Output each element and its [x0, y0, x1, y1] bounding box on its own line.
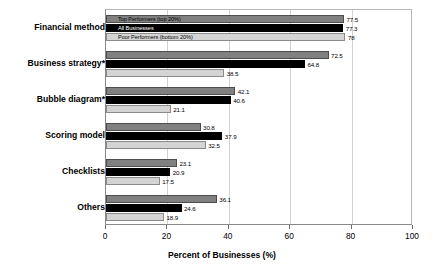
- x-tick: [228, 225, 229, 229]
- bar-row: 77.3: [106, 24, 411, 33]
- bar: [106, 69, 224, 78]
- x-tick: [351, 225, 352, 229]
- bar-value-label: 77.5: [346, 15, 358, 22]
- bar: [106, 177, 160, 186]
- x-tick-label: 60: [285, 231, 294, 241]
- bar-row: 78: [106, 33, 411, 42]
- bar: [106, 15, 344, 24]
- bar-value-label: 20.9: [173, 168, 185, 175]
- bar: [106, 195, 217, 204]
- bar-value-label: 32.5: [208, 142, 220, 149]
- category-label: Others: [0, 202, 105, 212]
- bar-value-label: 42.1: [238, 87, 250, 94]
- bar: [106, 123, 201, 132]
- x-axis-title: Percent of Businesses (%): [0, 250, 444, 260]
- bar-row: 42.1: [106, 87, 411, 96]
- bar: [106, 87, 235, 96]
- bar: [106, 132, 222, 141]
- bar-row: 38.5: [106, 69, 411, 78]
- x-tick: [289, 225, 290, 229]
- bar-row: 72.5: [106, 51, 411, 60]
- bar-row: 17.5: [106, 177, 411, 186]
- bar-group: 36.124.618.9: [106, 190, 411, 226]
- bar-row: 37.9: [106, 132, 411, 141]
- bar: [106, 96, 231, 105]
- bar: [106, 213, 164, 222]
- bar-row: 23.1: [106, 159, 411, 168]
- bar: [106, 24, 343, 33]
- bar-value-label: 38.5: [227, 70, 239, 77]
- bar-row: 24.6: [106, 204, 411, 213]
- x-tick-label: 40: [223, 231, 232, 241]
- bar-row: 30.8: [106, 123, 411, 132]
- bar-value-label: 18.9: [167, 214, 179, 221]
- x-tick: [166, 225, 167, 229]
- bar: [106, 141, 206, 150]
- bar-row: 32.5: [106, 141, 411, 150]
- category-label: Scoring model: [0, 130, 105, 140]
- x-tick-label: 0: [103, 231, 108, 241]
- bar-group: 77.577.378: [106, 10, 411, 46]
- bar-value-label: 64.8: [307, 60, 319, 67]
- bar-group: 72.564.838.5: [106, 46, 411, 82]
- bar-value-label: 30.8: [203, 123, 215, 130]
- bar-group: 42.140.621.1: [106, 82, 411, 118]
- bar-row: 20.9: [106, 168, 411, 177]
- bar-value-label: 21.1: [173, 106, 185, 113]
- bar-row: 18.9: [106, 213, 411, 222]
- bar-value-label: 37.9: [225, 132, 237, 139]
- bar-value-label: 17.5: [162, 178, 174, 185]
- x-tick: [105, 225, 106, 229]
- bar-row: 40.6: [106, 96, 411, 105]
- plot-area: 77.577.37872.564.838.542.140.621.130.837…: [105, 9, 412, 225]
- category-label: Checklists: [0, 166, 105, 176]
- bar: [106, 33, 345, 42]
- bar-row: 77.5: [106, 15, 411, 24]
- x-tick-label: 100: [405, 231, 419, 241]
- x-tick: [412, 225, 413, 229]
- bar: [106, 51, 329, 60]
- bar: [106, 168, 170, 177]
- bar-chart: 77.577.37872.564.838.542.140.621.130.837…: [0, 0, 444, 279]
- bar-group: 23.120.917.5: [106, 154, 411, 190]
- bar: [106, 105, 171, 114]
- bar-group: 30.837.932.5: [106, 118, 411, 154]
- bar-value-label: 24.6: [184, 204, 196, 211]
- category-label: Financial method: [0, 22, 105, 32]
- category-label: Business strategy*: [0, 58, 105, 68]
- bar-value-label: 23.1: [179, 159, 191, 166]
- bar-value-label: 36.1: [219, 195, 231, 202]
- bar-row: 36.1: [106, 195, 411, 204]
- bar-value-label: 72.5: [331, 51, 343, 58]
- category-label: Bubble diagram*: [0, 94, 105, 104]
- x-tick-label: 20: [162, 231, 171, 241]
- bar-row: 21.1: [106, 105, 411, 114]
- x-tick-label: 80: [346, 231, 355, 241]
- bar-value-label: 78: [348, 34, 355, 41]
- bar-value-label: 77.3: [346, 24, 358, 31]
- bar: [106, 60, 305, 69]
- bar-row: 64.8: [106, 60, 411, 69]
- bar: [106, 204, 182, 213]
- bar: [106, 159, 177, 168]
- bar-value-label: 40.6: [233, 96, 245, 103]
